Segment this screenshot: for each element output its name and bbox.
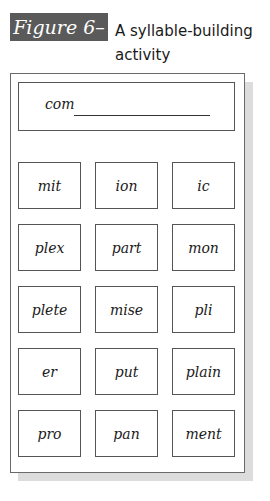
prefix-text: com xyxy=(45,96,75,112)
syllable-grid: mit ion ic plex part mon plete mise pli … xyxy=(18,162,236,457)
syllable-card[interactable]: put xyxy=(95,348,158,395)
figure-label: Figure 6–8 xyxy=(10,13,108,41)
syllable-card[interactable]: pro xyxy=(18,410,81,457)
prefix-box: com xyxy=(18,82,235,131)
syllable-card[interactable]: mit xyxy=(18,162,81,209)
syllable-card[interactable]: ment xyxy=(172,410,235,457)
blank-line xyxy=(74,115,210,116)
syllable-card[interactable]: part xyxy=(95,224,158,271)
syllable-card[interactable]: pli xyxy=(172,286,235,333)
syllable-card[interactable]: plain xyxy=(172,348,235,395)
syllable-card[interactable]: mise xyxy=(95,286,158,333)
syllable-card[interactable]: ic xyxy=(172,162,235,209)
activity-panel: com mit ion ic plex part mon plete mise … xyxy=(10,73,245,473)
syllable-card[interactable]: er xyxy=(18,348,81,395)
figure-caption: A syllable-building activity xyxy=(115,19,265,67)
syllable-card[interactable]: ion xyxy=(95,162,158,209)
syllable-card[interactable]: plex xyxy=(18,224,81,271)
syllable-card[interactable]: plete xyxy=(18,286,81,333)
syllable-card[interactable]: mon xyxy=(172,224,235,271)
syllable-card[interactable]: pan xyxy=(95,410,158,457)
